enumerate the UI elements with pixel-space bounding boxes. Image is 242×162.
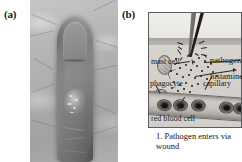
histamine-dot bbox=[194, 77, 196, 79]
panel-label-a: (a) bbox=[4, 8, 16, 20]
panel-label-b: (b) bbox=[122, 8, 135, 20]
wound-fleck bbox=[70, 112, 74, 113]
histamine-dot bbox=[188, 74, 190, 76]
label-pathogen: pathogen bbox=[210, 56, 241, 65]
histamine-dot bbox=[177, 90, 179, 92]
caption-text: 1. Pathogen enters via wound bbox=[156, 131, 231, 151]
wound-fleck bbox=[69, 95, 73, 97]
fingernail bbox=[63, 22, 87, 62]
histamine-dot bbox=[189, 91, 191, 93]
histamine-dot bbox=[185, 82, 187, 84]
finger-crease bbox=[62, 150, 85, 153]
figure-container: (a) bbox=[0, 0, 242, 162]
wound-fleck bbox=[73, 107, 76, 109]
red-blood-cell-icon bbox=[232, 102, 242, 115]
red-blood-cell-icon bbox=[191, 99, 207, 112]
histamine-dot bbox=[207, 66, 209, 68]
finger-crease bbox=[64, 137, 84, 140]
histamine-dot bbox=[182, 76, 184, 78]
histamine-dot bbox=[170, 70, 172, 72]
label-red-blood-cell: red blood cell bbox=[151, 114, 195, 123]
histamine-dot bbox=[197, 83, 199, 85]
panel-a: (a) bbox=[0, 0, 118, 162]
inflammation-diagram: mast cell phagocyte capillary red blood … bbox=[148, 12, 242, 128]
finger-crease bbox=[63, 127, 85, 131]
label-histamine: histamine bbox=[210, 72, 242, 81]
histamine-dot bbox=[193, 61, 195, 63]
label-phagocyte: phagocyte bbox=[150, 79, 183, 88]
histamine-dot bbox=[196, 65, 198, 67]
wound-fleck bbox=[75, 99, 78, 101]
histamine-dot bbox=[190, 69, 192, 71]
panel-b-caption: 1. Pathogen enters via wound bbox=[156, 131, 242, 151]
finger bbox=[57, 17, 93, 162]
label-mast-cell: mast cell bbox=[151, 57, 180, 66]
wound-fleck bbox=[67, 103, 72, 105]
fingernail-edge bbox=[64, 59, 86, 62]
histamine-dot bbox=[191, 85, 193, 87]
fingertip-photograph bbox=[30, 0, 118, 162]
red-blood-cell-icon bbox=[156, 99, 172, 112]
histamine-dot bbox=[179, 67, 181, 69]
histamine-dot bbox=[176, 73, 178, 75]
histamine-dot bbox=[185, 64, 187, 66]
wound-area bbox=[64, 89, 86, 115]
histamine-dot bbox=[201, 70, 203, 72]
histamine-dot bbox=[198, 57, 200, 59]
histamine-dot bbox=[183, 88, 185, 90]
